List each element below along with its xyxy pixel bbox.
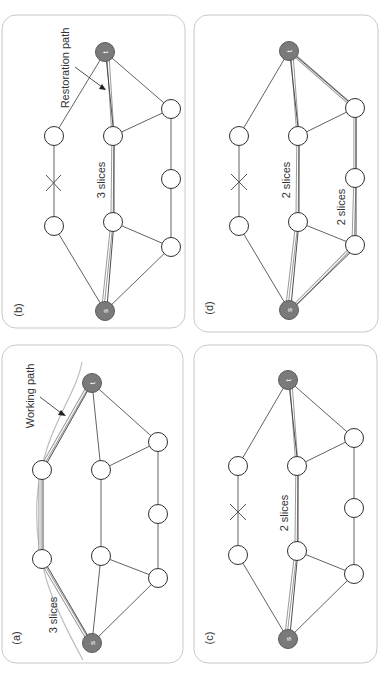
node	[92, 547, 111, 566]
node	[162, 100, 181, 119]
panel-d: t s (d) 2 slices 2 slices	[194, 15, 378, 332]
node	[230, 217, 249, 236]
source-node-label: s	[101, 309, 110, 313]
node	[33, 550, 52, 569]
node	[149, 569, 168, 588]
slices-annotation: 2 slices	[335, 188, 347, 225]
node	[45, 217, 64, 236]
panel-c-label: (c)	[203, 632, 215, 645]
node	[230, 127, 249, 146]
node	[162, 238, 181, 257]
panel-b: t s (b) 3 slices Restoration path	[2, 15, 185, 328]
node	[45, 127, 64, 146]
node	[346, 169, 365, 188]
node	[288, 457, 307, 476]
node	[346, 236, 365, 255]
node	[149, 433, 168, 452]
node	[92, 461, 111, 480]
slices-annotation: 3 slices	[47, 596, 59, 633]
source-node-label: s	[285, 308, 294, 312]
slices-annotation: 2 slices	[278, 494, 290, 531]
node	[289, 213, 308, 232]
node	[162, 170, 181, 189]
node	[104, 213, 123, 232]
node	[229, 546, 248, 565]
source-node-label: s	[284, 637, 293, 641]
figure-canvas: t s (b) 3 slices Restoration path	[0, 0, 389, 675]
node	[289, 127, 308, 146]
panel-b-frame	[2, 15, 185, 328]
node	[288, 542, 307, 561]
node	[149, 505, 168, 524]
node	[345, 429, 364, 448]
panel-c: t s (c) 2 slices	[194, 345, 377, 663]
panel-d-label: (d)	[203, 301, 215, 314]
node	[346, 99, 365, 118]
panel-a: t s (a) 3 slices Working path	[2, 345, 183, 663]
node	[345, 499, 364, 518]
slices-annotation: 2 slices	[280, 161, 292, 198]
panel-a-label: (a)	[10, 631, 22, 644]
restoration-path-label: Restoration path	[59, 28, 71, 109]
panel-b-label: (b)	[12, 303, 24, 316]
working-path-label: Working path	[24, 364, 36, 429]
node	[229, 457, 248, 476]
source-node-label: s	[88, 641, 97, 645]
node	[345, 565, 364, 584]
slices-annotation: 3 slices	[95, 161, 107, 198]
node	[104, 127, 123, 146]
node	[33, 461, 52, 480]
